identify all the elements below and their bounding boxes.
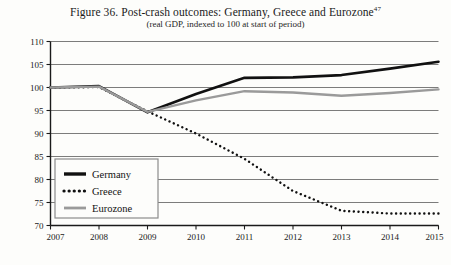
y-axis-tick-label: 75	[35, 198, 45, 208]
y-axis-tick-label: 80	[35, 175, 45, 185]
y-axis-tick-label: 110	[30, 37, 44, 47]
x-axis-tick-label: 2007	[47, 232, 66, 242]
series-line-germany	[51, 62, 439, 113]
y-axis-tick-label: 85	[35, 152, 45, 162]
y-axis-tick-label: 105	[30, 60, 44, 70]
legend-label-greece: Greece	[92, 186, 122, 197]
series-line-eurozone	[51, 87, 439, 112]
y-axis-tick-label: 95	[35, 106, 45, 116]
x-axis-tick-label: 2011	[236, 232, 254, 242]
legend-label-germany: Germany	[92, 169, 132, 180]
x-axis: 200720082009201020112012201320142015	[47, 226, 445, 242]
figure-container: Figure 36. Post-crash outcomes: Germany,…	[0, 0, 451, 265]
chart-legend: GermanyGreeceEurozone	[55, 159, 158, 218]
x-axis-tick-label: 2013	[333, 232, 352, 242]
legend-label-eurozone: Eurozone	[92, 203, 133, 214]
x-axis-tick-label: 2014	[381, 232, 400, 242]
y-axis-tick-label: 100	[30, 83, 44, 93]
x-axis-tick-label: 2009	[139, 232, 158, 242]
line-chart-plot: 707580859095100105110 200720082009201020…	[0, 0, 451, 265]
x-axis-tick-label: 2012	[284, 232, 302, 242]
x-axis-tick-label: 2008	[90, 232, 109, 242]
y-axis-tick-label: 90	[35, 129, 45, 139]
y-axis: 707580859095100105110	[30, 37, 51, 231]
x-axis-tick-label: 2015	[426, 232, 445, 242]
x-axis-tick-label: 2010	[187, 232, 206, 242]
y-axis-tick-label: 70	[35, 221, 45, 231]
